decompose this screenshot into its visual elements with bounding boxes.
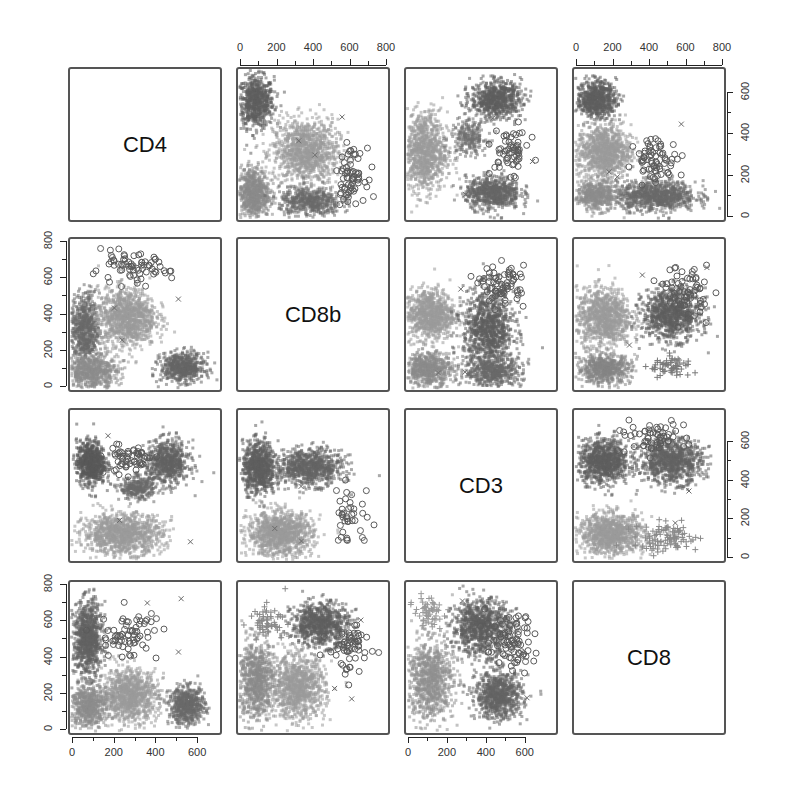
scatter-points	[406, 582, 556, 733]
axis-tick-label: 0	[739, 544, 751, 568]
axis-minor-tick	[727, 154, 731, 155]
axis-tick	[613, 59, 614, 65]
axis-tick-label: 600	[739, 428, 751, 452]
axis-minor-tick	[258, 61, 259, 65]
axis-minor-tick	[727, 112, 731, 113]
axis-tick-label: 400	[739, 120, 751, 144]
axis-tick	[313, 59, 314, 65]
scatter-panel-cd8b-vs-cd3	[404, 237, 558, 392]
axis-tick-label: 400	[637, 41, 661, 53]
scatter-panel-cd4-vs-cd8	[572, 67, 726, 222]
axis-tick-label: 600	[739, 79, 751, 103]
scatter-points	[238, 69, 388, 220]
axis-tick	[447, 737, 448, 743]
axis-tick-label: 800	[42, 571, 54, 595]
axis-tick	[727, 92, 733, 93]
axis-tick-label: 200	[265, 41, 289, 53]
axis-tick-label: 200	[42, 680, 54, 704]
axis-tick-label: 0	[42, 373, 54, 397]
axis-minor-tick	[427, 737, 428, 741]
axis-tick-label: 800	[710, 41, 734, 53]
axis-minor-tick	[295, 61, 296, 65]
axis-tick	[727, 557, 733, 558]
scatter-points	[574, 69, 724, 220]
scatter-panel-cd8-vs-cd8b	[236, 580, 390, 735]
axis-tick	[408, 737, 409, 743]
axis-tick-label: 400	[143, 746, 167, 758]
scatter-points	[70, 239, 220, 390]
axis-tick-label: 600	[42, 607, 54, 631]
scatter-points	[238, 582, 388, 733]
axis-minor-tick	[727, 195, 731, 196]
scatter-points	[70, 582, 220, 733]
axis-tick-label: 200	[42, 337, 54, 361]
scatter-panel-cd8-vs-cd4	[68, 580, 222, 735]
axis-minor-tick	[631, 61, 632, 65]
axis-minor-tick	[62, 295, 66, 296]
axis-tick	[727, 175, 733, 176]
scatter-points	[406, 239, 556, 390]
axis-tick-label: 200	[435, 746, 459, 758]
axis-tick-label: 0	[60, 746, 84, 758]
axis-tick-label: 400	[739, 467, 751, 491]
axis-minor-tick	[368, 61, 369, 65]
axis-minor-tick	[135, 737, 136, 741]
variable-label: CD4	[70, 132, 220, 158]
axis-tick	[727, 518, 733, 519]
axis-minor-tick	[594, 61, 595, 65]
axis-minor-tick	[62, 368, 66, 369]
axis-line	[576, 65, 722, 66]
axis-tick-label: 400	[42, 301, 54, 325]
axis-tick-label: 200	[601, 41, 625, 53]
axis-tick-label: 600	[513, 746, 537, 758]
axis-minor-tick	[62, 602, 66, 603]
axis-tick-label: 400	[301, 41, 325, 53]
axis-tick	[114, 737, 115, 743]
scatter-panel-cd3-vs-cd8	[572, 408, 726, 563]
axis-tick	[649, 59, 650, 65]
axis-tick-label: 800	[42, 228, 54, 252]
scatter-points	[574, 239, 724, 390]
axis-tick	[277, 59, 278, 65]
scatter-panel-cd4-vs-cd8b	[236, 67, 390, 222]
axis-tick-label: 200	[739, 505, 751, 529]
axis-minor-tick	[62, 332, 66, 333]
scatter-panel-cd3-vs-cd4	[68, 408, 222, 563]
axis-minor-tick	[505, 737, 506, 741]
variable-label: CD3	[406, 473, 556, 499]
scatter-panel-cd8-vs-cd3	[404, 580, 558, 735]
diagonal-panel-cd8b: CD8b	[236, 237, 390, 392]
diagonal-panel-cd8: CD8	[572, 580, 726, 735]
axis-minor-tick	[727, 460, 731, 461]
axis-tick	[60, 350, 66, 351]
scatter-points	[406, 69, 556, 220]
axis-tick	[727, 216, 733, 217]
axis-tick	[686, 59, 687, 65]
variable-label: CD8b	[238, 302, 388, 328]
axis-tick-label: 600	[674, 41, 698, 53]
axis-minor-tick	[62, 259, 66, 260]
axis-minor-tick	[331, 61, 332, 65]
axis-line	[66, 241, 67, 386]
axis-minor-tick	[727, 538, 731, 539]
axis-tick-label: 0	[564, 41, 588, 53]
axis-tick	[722, 59, 723, 65]
variable-label: CD8	[574, 645, 724, 671]
axis-tick	[727, 441, 733, 442]
axis-tick-label: 800	[374, 41, 398, 53]
axis-tick-label: 0	[396, 746, 420, 758]
axis-tick	[350, 59, 351, 65]
axis-tick	[60, 584, 66, 585]
axis-tick	[60, 657, 66, 658]
axis-tick-label: 0	[228, 41, 252, 53]
axis-minor-tick	[704, 61, 705, 65]
axis-tick	[727, 480, 733, 481]
diagonal-panel-cd3: CD3	[404, 408, 558, 563]
scatter-panel-cd4-vs-cd3	[404, 67, 558, 222]
axis-minor-tick	[466, 737, 467, 741]
axis-tick	[386, 59, 387, 65]
scatter-points	[238, 410, 388, 561]
axis-tick-label: 600	[185, 746, 209, 758]
scatter-panel-cd8b-vs-cd4	[68, 237, 222, 392]
axis-tick	[727, 133, 733, 134]
